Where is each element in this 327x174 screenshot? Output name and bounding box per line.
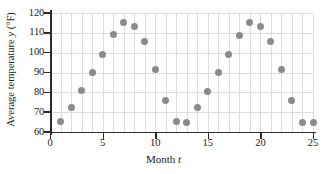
data-point [152, 66, 159, 73]
x-tick-label: 15 [193, 137, 223, 148]
data-point [299, 119, 306, 126]
y-axis-title-pre: Average temperature [5, 37, 16, 127]
data-point [173, 118, 180, 125]
y-axis-title-variable: y [5, 32, 16, 37]
x-tick-label: 10 [140, 137, 170, 148]
data-point [236, 32, 243, 39]
x-axis-title: Month t [0, 153, 327, 165]
x-tick-label: 20 [245, 137, 275, 148]
data-point [278, 66, 285, 73]
x-tick-label: 0 [35, 137, 65, 148]
data-point [225, 51, 232, 58]
data-point [162, 97, 169, 104]
data-point [110, 31, 117, 38]
data-point [183, 119, 190, 126]
data-point [131, 23, 138, 30]
data-point [267, 38, 274, 45]
y-axis-title-post: (°F) [5, 12, 16, 32]
x-axis-title-variable: t [178, 153, 181, 165]
scatter-plot: 60708090100110120 0510152025 Month t Ave… [0, 0, 327, 174]
y-tick-mark [44, 92, 51, 93]
x-tick-label: 5 [88, 137, 118, 148]
y-tick-mark [44, 111, 51, 112]
data-point [99, 51, 106, 58]
gridline-horizontal [50, 92, 313, 93]
data-point [57, 118, 64, 125]
gridline-horizontal [50, 112, 313, 113]
y-axis-title: Average temperature y (°F) [5, 0, 16, 144]
gridline-horizontal [50, 33, 313, 34]
y-tick-mark [44, 12, 51, 13]
x-axis-title-text: Month [146, 153, 178, 165]
data-point [215, 69, 222, 76]
data-point [141, 38, 148, 45]
y-tick-mark [44, 72, 51, 73]
gridline-vertical [313, 13, 314, 132]
x-tick-label: 25 [298, 137, 327, 148]
y-tick-mark [44, 52, 51, 53]
data-point [68, 104, 75, 111]
data-point [78, 87, 85, 94]
y-tick-mark [44, 32, 51, 33]
data-point [257, 23, 264, 30]
data-point [89, 69, 96, 76]
data-point [204, 88, 211, 95]
data-point [120, 19, 127, 26]
x-axis-line [47, 132, 316, 134]
data-point [310, 119, 317, 126]
gridline-horizontal [50, 13, 313, 14]
gridline-horizontal [50, 53, 313, 54]
data-point [288, 97, 295, 104]
data-point [246, 19, 253, 26]
data-point [194, 104, 201, 111]
plot-area [50, 13, 313, 132]
